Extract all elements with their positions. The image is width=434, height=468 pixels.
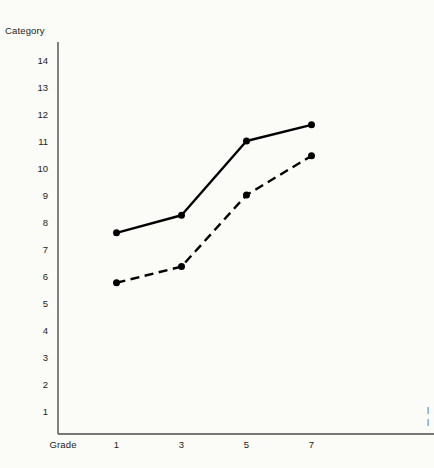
cropped-edge-mark-top: | — [427, 406, 429, 414]
data-point-marker — [243, 138, 250, 145]
data-point-marker — [178, 212, 185, 219]
series-line — [117, 125, 312, 233]
data-point-marker — [113, 229, 120, 236]
series-layer — [113, 121, 315, 286]
series-solid-series — [113, 121, 315, 236]
data-point-marker — [113, 279, 120, 286]
data-point-marker — [178, 263, 185, 270]
plot-area — [0, 0, 434, 468]
data-point-marker — [308, 121, 315, 128]
data-point-marker — [308, 152, 315, 159]
cropped-edge-mark-bottom: | — [427, 418, 429, 426]
line-chart: Category 1413121110987654321 Grade 1357 … — [0, 0, 434, 468]
data-point-marker — [243, 192, 250, 199]
series-line — [117, 156, 312, 283]
series-dashed-series — [113, 152, 315, 286]
